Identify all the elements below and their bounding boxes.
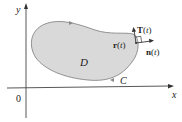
region-label: D	[79, 56, 88, 68]
position-vector-label: r(t)	[113, 40, 126, 50]
normal-vector-label: n(t)	[146, 47, 160, 57]
y-axis	[24, 3, 28, 118]
tangent-vector-label: T(t)	[137, 25, 152, 35]
curve-label: C	[120, 75, 127, 86]
x-axis-label: x	[171, 89, 177, 100]
curve-point	[135, 42, 137, 44]
green-theorem-diagram: y x 0 D C r(t) T(t) n(t)	[0, 0, 182, 122]
curve-arrow-icon	[110, 78, 114, 82]
normal-vector	[136, 39, 154, 43]
region-d	[31, 22, 138, 81]
x-axis	[7, 84, 174, 89]
y-axis-label: y	[15, 4, 21, 15]
origin-label: 0	[16, 93, 21, 104]
